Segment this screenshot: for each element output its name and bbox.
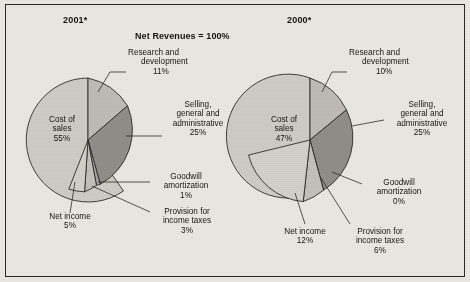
label-line: development: [349, 57, 431, 66]
label-line: amortization: [364, 187, 434, 196]
label-line: Goodwill: [152, 172, 220, 181]
label-line: income taxes: [344, 236, 416, 245]
figure-container: 2001* 2000* Net Revenues = 100%: [0, 0, 470, 282]
label-line: income taxes: [152, 216, 222, 225]
label-line: Cost of: [256, 115, 312, 124]
label-cost-of-sales-2000: Cost of sales 47%: [256, 115, 312, 143]
pie-2000: [226, 72, 384, 224]
label-research-and-development-2001: Research and development 11%: [128, 48, 208, 76]
label-line: administrative: [386, 119, 458, 128]
label-line: sales: [256, 124, 312, 133]
label-line: sales: [34, 124, 90, 133]
label-value: 1%: [152, 191, 220, 200]
label-line: amortization: [152, 181, 220, 190]
label-value: 12%: [274, 236, 336, 245]
label-line: Selling,: [386, 100, 458, 109]
label-value: 6%: [344, 246, 416, 255]
leader-selling-general-administrative-2000: [352, 120, 384, 126]
leader-provision-for-income-taxes-2000: [321, 178, 350, 224]
label-value: 55%: [34, 134, 90, 143]
label-goodwill-amortization-2001: Goodwill amortization 1%: [152, 172, 220, 200]
label-value: 11%: [128, 67, 208, 76]
label-line: Research and: [349, 48, 431, 57]
label-value: 5%: [39, 221, 101, 230]
label-provision-for-income-taxes-2001: Provision for income taxes 3%: [152, 207, 222, 235]
label-line: administrative: [163, 119, 233, 128]
label-line: development: [128, 57, 208, 66]
label-line: general and: [386, 109, 458, 118]
label-provision-for-income-taxes-2000: Provision for income taxes 6%: [344, 227, 416, 255]
label-net-income-2001: Net income 5%: [39, 212, 101, 231]
label-line: Selling,: [163, 100, 233, 109]
label-net-income-2000: Net income 12%: [274, 227, 336, 246]
label-research-and-development-2000: Research and development 10%: [349, 48, 431, 76]
label-selling-general-administrative-2001: Selling, general and administrative 25%: [163, 100, 233, 138]
label-line: Provision for: [152, 207, 222, 216]
label-line: Provision for: [344, 227, 416, 236]
label-line: Cost of: [34, 115, 90, 124]
label-value: 10%: [349, 67, 431, 76]
label-cost-of-sales-2001: Cost of sales 55%: [34, 115, 90, 143]
label-selling-general-administrative-2000: Selling, general and administrative 25%: [386, 100, 458, 138]
label-value: 25%: [163, 128, 233, 137]
label-line: Goodwill: [364, 178, 434, 187]
label-value: 0%: [364, 197, 434, 206]
label-value: 25%: [386, 128, 458, 137]
label-line: Net income: [39, 212, 101, 221]
label-line: Research and: [128, 48, 208, 57]
label-value: 47%: [256, 134, 312, 143]
label-goodwill-amortization-2000: Goodwill amortization 0%: [364, 178, 434, 206]
label-line: general and: [163, 109, 233, 118]
label-value: 3%: [152, 226, 222, 235]
label-line: Net income: [274, 227, 336, 236]
